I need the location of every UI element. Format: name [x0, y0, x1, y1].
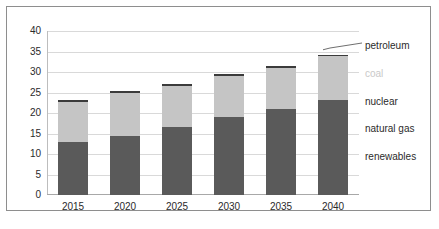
- x-axis-label-2035: 2035: [251, 201, 311, 212]
- y-tick-label-15: 15: [15, 129, 41, 139]
- segment-nuclear-2020: [110, 136, 140, 155]
- segment-natural-gas-2025: [162, 149, 192, 172]
- segment-petroleum-2030: [214, 74, 244, 76]
- segment-natural-gas-2015: [58, 159, 88, 177]
- gridline-40: [47, 31, 359, 32]
- segment-petroleum-2040: [318, 55, 348, 57]
- segment-petroleum-2020: [110, 91, 140, 93]
- segment-petroleum-2015: [58, 100, 88, 102]
- plot-area: 0510152025303540 20152020202520302035204…: [47, 31, 359, 195]
- gridline-35: [47, 52, 359, 53]
- y-tick-label-10: 10: [15, 149, 41, 159]
- y-tick-label-20: 20: [15, 108, 41, 118]
- segment-nuclear-2030: [214, 117, 244, 142]
- x-axis-label-2020: 2020: [95, 201, 155, 212]
- segment-nuclear-2025: [162, 127, 192, 149]
- segment-nuclear-2015: [58, 142, 88, 159]
- segment-coal-2035: [266, 68, 296, 109]
- gridline-5: [47, 175, 359, 176]
- segment-natural-gas-2020: [110, 155, 140, 175]
- y-tick-label-0: 0: [15, 190, 41, 200]
- y-axis-line: [47, 31, 48, 195]
- legend-label-petroleum: petroleum: [365, 40, 409, 51]
- y-tick-label-30: 30: [15, 67, 41, 77]
- bar-2020: [110, 31, 140, 195]
- segment-natural-gas-2030: [214, 142, 244, 168]
- gridline-20: [47, 113, 359, 114]
- segment-petroleum-2025: [162, 84, 192, 86]
- legend-label-natural-gas: natural gas: [365, 123, 414, 134]
- segment-renewables-2030: [214, 168, 244, 195]
- bar-2035: [266, 31, 296, 195]
- legend-label-coal: coal: [365, 68, 383, 79]
- chart-frame: 0510152025303540 20152020202520302035204…: [6, 6, 431, 211]
- segment-nuclear-2035: [266, 109, 296, 136]
- segment-renewables-2040: [318, 163, 348, 195]
- y-tick-label-40: 40: [15, 26, 41, 36]
- gridline-10: [47, 154, 359, 155]
- x-axis-label-2030: 2030: [199, 201, 259, 212]
- y-tick-label-25: 25: [15, 88, 41, 98]
- bar-2015: [58, 31, 88, 195]
- bar-2040: [318, 31, 348, 195]
- gridline-30: [47, 72, 359, 73]
- segment-coal-2030: [214, 76, 244, 117]
- segment-natural-gas-2035: [266, 136, 296, 165]
- segment-renewables-2020: [110, 175, 140, 195]
- segment-petroleum-2035: [266, 66, 296, 68]
- segment-coal-2015: [58, 102, 88, 142]
- bar-2025: [162, 31, 192, 195]
- legend-label-nuclear: nuclear: [365, 96, 398, 107]
- segment-natural-gas-2040: [318, 131, 348, 163]
- x-axis-line: [47, 194, 359, 195]
- segment-renewables-2025: [162, 172, 192, 195]
- chart-figure: 0510152025303540 20152020202520302035204…: [0, 0, 439, 229]
- segment-renewables-2035: [266, 165, 296, 195]
- segment-coal-2020: [110, 93, 140, 136]
- segment-renewables-2015: [58, 177, 88, 195]
- segment-coal-2025: [162, 86, 192, 127]
- segment-coal-2040: [318, 56, 348, 100]
- x-axis-label-2040: 2040: [303, 201, 363, 212]
- x-axis-label-2015: 2015: [43, 201, 103, 212]
- gridline-15: [47, 134, 359, 135]
- y-tick-label-5: 5: [15, 170, 41, 180]
- x-axis-label-2025: 2025: [147, 201, 207, 212]
- bar-2030: [214, 31, 244, 195]
- gridline-25: [47, 93, 359, 94]
- legend-label-renewables: renewables: [365, 151, 416, 162]
- y-tick-label-35: 35: [15, 47, 41, 57]
- segment-nuclear-2040: [318, 100, 348, 130]
